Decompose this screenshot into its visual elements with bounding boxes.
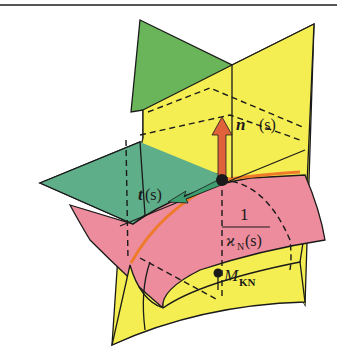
fraction-denominator-arg: (s) [245,232,262,250]
normal-section-diagram: n (s) t (s) 1 ϰ N (s) M KN [0,0,337,356]
tangent-arg-label: (s) [145,186,162,204]
surface-point [216,174,228,186]
center-point-label: M [223,266,239,285]
fraction-numerator: 1 [240,205,249,224]
fraction-denominator-sub: N [237,241,244,252]
normal-arg-label: (s) [259,116,276,134]
fraction-denominator-symbol: ϰ [226,232,235,249]
center-point-sub-label: KN [239,276,256,288]
normal-label: n [236,115,245,134]
